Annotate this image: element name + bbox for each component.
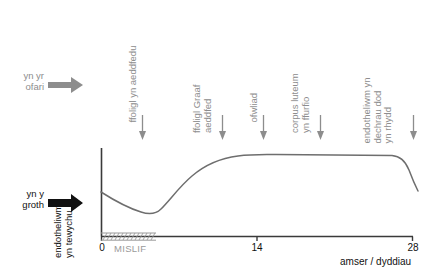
- x-axis-label: amser / dyddiau: [340, 256, 411, 267]
- x-tick-14: 14: [249, 242, 265, 253]
- x-tick-28: 28: [405, 242, 421, 253]
- diagram-canvas: yn yr ofari yn y groth ffoligl yn aeddfe…: [0, 0, 430, 276]
- phase-label-mislif: MISLIF: [114, 243, 146, 254]
- plot-area: [0, 0, 430, 276]
- endometrium-curve: [101, 154, 418, 213]
- x-tick-0: 0: [95, 242, 109, 253]
